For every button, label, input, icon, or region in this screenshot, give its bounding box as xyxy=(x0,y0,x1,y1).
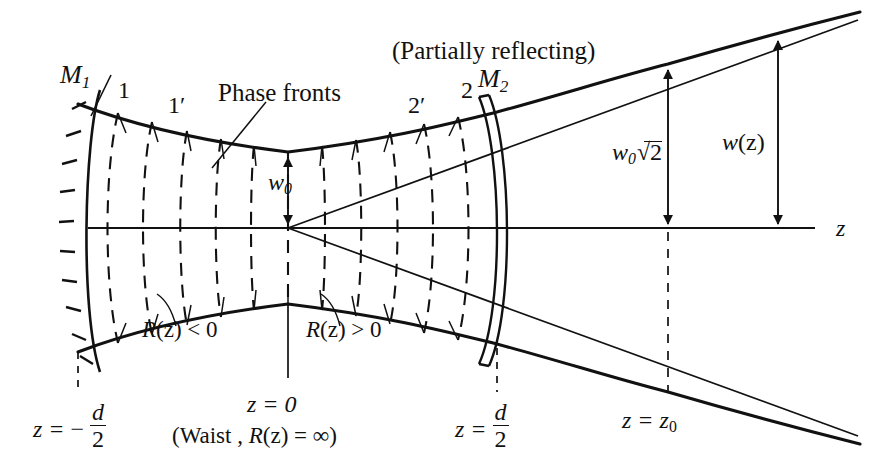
z-position-left-mirror: z = − d2 xyxy=(33,400,106,452)
leader-line-group xyxy=(91,75,340,326)
front-tick-u3 xyxy=(187,131,191,151)
wavefront-label-2: 2 xyxy=(461,78,473,102)
front-tick-u1 xyxy=(118,113,126,133)
front-tick-l11 xyxy=(449,321,458,340)
mirror-m2-label: M2 xyxy=(478,66,508,95)
partially-reflecting-note: (Partially reflecting) xyxy=(392,38,595,63)
spot-size-label: w(z) xyxy=(722,130,765,154)
measure-arrow-group xyxy=(288,41,778,224)
radius-positive-label: R(z) > 0 xyxy=(306,318,382,341)
figure-canvas xyxy=(0,0,877,460)
front-tick-u11 xyxy=(449,117,458,136)
mirror-m1-label: M1 xyxy=(60,62,90,91)
front-tick-u2 xyxy=(152,122,158,142)
mirror-m1-group[interactable] xyxy=(59,90,100,372)
z-position-right-mirror: z = d2 xyxy=(455,400,509,452)
wavefront-label-1-prime: 1′ xyxy=(168,93,185,117)
mirror-m2-group[interactable] xyxy=(479,95,507,366)
waist-radius-label: w0 xyxy=(268,170,292,197)
phase-fronts-leader xyxy=(212,102,266,168)
phase-fronts-label: Phase fronts xyxy=(218,80,341,105)
z-position-waist: z = 0 xyxy=(247,392,297,416)
wavefront-label-2-prime: 2′ xyxy=(408,93,425,117)
radius-negative-label: R(z) < 0 xyxy=(142,318,218,341)
mirror-m2-cap-bottom xyxy=(479,364,489,366)
mirror-m1-surface[interactable] xyxy=(86,90,100,372)
mirror-m1-hatching xyxy=(59,102,93,364)
front-tick-u9 xyxy=(384,132,390,152)
front-tick-u10 xyxy=(416,124,424,144)
z-position-rayleigh: z = z0 xyxy=(622,408,677,435)
gaussian-beam-figure: M1 1 1′ Phase fronts 2′ 2 (Partially ref… xyxy=(0,0,877,460)
mirror-m1-leader xyxy=(91,75,111,116)
z-axis-label: z xyxy=(836,216,845,240)
front-tick-l1 xyxy=(118,323,126,343)
mirror-m2-surface-back[interactable] xyxy=(479,97,497,364)
wavefront-label-1: 1 xyxy=(118,78,130,102)
front-tick-l9 xyxy=(384,304,390,324)
front-tick-l10 xyxy=(416,313,424,333)
mirror-m2-cap-top xyxy=(479,95,489,97)
w0-root-two-label: w0√2 xyxy=(612,140,662,167)
waist-caption: (Waist , R(z) = ∞) xyxy=(172,424,337,447)
